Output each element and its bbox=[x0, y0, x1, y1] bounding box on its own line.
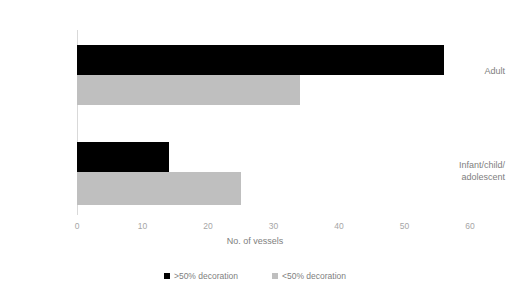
x-axis-tick-0: 0 bbox=[75, 221, 80, 231]
category-group-infant-child-adolescent bbox=[77, 142, 470, 205]
category-label-adult: Adult bbox=[438, 66, 510, 78]
x-axis-tick-10: 10 bbox=[138, 221, 147, 231]
legend-swatch-low-decoration-icon bbox=[272, 273, 278, 279]
category-label-infant-line-2: adolescent bbox=[438, 172, 505, 184]
x-axis-tick-50: 50 bbox=[400, 221, 409, 231]
x-axis-tick-40: 40 bbox=[334, 221, 343, 231]
legend-label-low-decoration: <50% decoration bbox=[282, 271, 346, 281]
bar-infant-low-decoration bbox=[77, 172, 241, 205]
legend-item-low-decoration: <50% decoration bbox=[272, 271, 346, 281]
bar-adult-low-decoration bbox=[77, 75, 300, 105]
legend-swatch-high-decoration-icon bbox=[164, 273, 170, 279]
category-group-adult bbox=[77, 45, 470, 105]
x-axis-title: No. of vessels bbox=[0, 236, 510, 246]
bar-adult-high-decoration bbox=[77, 45, 444, 75]
legend-item-high-decoration: >50% decoration bbox=[164, 271, 238, 281]
chart-legend: >50% decoration <50% decoration bbox=[0, 271, 510, 281]
x-axis-tick-30: 30 bbox=[269, 221, 278, 231]
bar-infant-high-decoration bbox=[77, 142, 169, 172]
category-label-infant: Infant/child/ adolescent bbox=[438, 160, 510, 183]
legend-label-high-decoration: >50% decoration bbox=[174, 271, 238, 281]
x-axis-tick-20: 20 bbox=[203, 221, 212, 231]
category-label-adult-line-1: Adult bbox=[438, 66, 505, 78]
bar-chart: Adult Infant/child/ adolescent 010203040… bbox=[0, 0, 510, 304]
plot-area bbox=[77, 30, 470, 215]
category-label-infant-line-1: Infant/child/ bbox=[438, 160, 505, 172]
x-axis-tick-60: 60 bbox=[465, 221, 474, 231]
